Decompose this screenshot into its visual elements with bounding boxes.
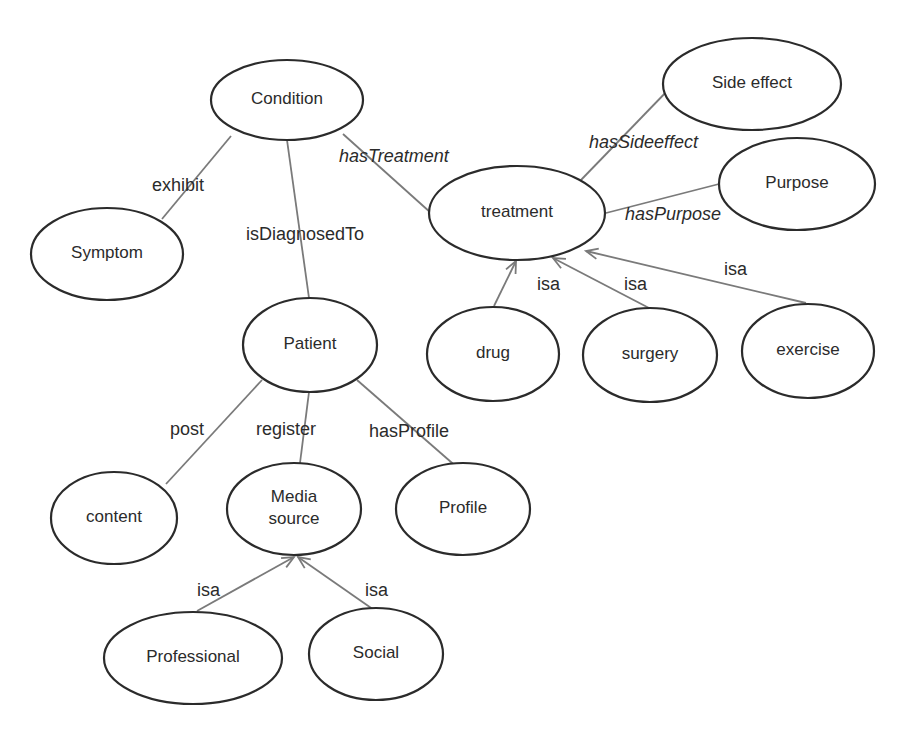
edge-drug-treatment bbox=[494, 261, 516, 306]
node-label: Side effect bbox=[712, 73, 792, 92]
node-purpose[interactable]: Purpose bbox=[719, 138, 875, 230]
node-label: surgery bbox=[622, 344, 679, 363]
edge-line bbox=[494, 261, 516, 306]
nodes-layer: ConditionSide effecttreatmentPurposeSymp… bbox=[31, 38, 875, 704]
edge-social-media_source bbox=[298, 557, 374, 610]
edge-label-post: post bbox=[170, 419, 204, 439]
node-professional[interactable]: Professional bbox=[104, 612, 282, 704]
node-label: drug bbox=[476, 343, 510, 362]
node-drug[interactable]: drug bbox=[427, 307, 559, 401]
edge-label-isdiagnosedto: isDiagnosedTo bbox=[246, 224, 364, 244]
edge-label-isa: isa bbox=[624, 274, 648, 294]
edge-label-isa: isa bbox=[197, 580, 221, 600]
node-label: exercise bbox=[776, 340, 839, 359]
node-symptom[interactable]: Symptom bbox=[31, 208, 183, 300]
node-label: content bbox=[86, 507, 142, 526]
edge-line bbox=[287, 140, 309, 298]
edge-label-exhibit: exhibit bbox=[152, 175, 204, 195]
node-label: Profile bbox=[439, 498, 487, 517]
edge-line bbox=[586, 251, 806, 303]
edge-label-isa: isa bbox=[537, 274, 561, 294]
edge-condition-patient bbox=[287, 140, 309, 298]
edge-label-isa: isa bbox=[365, 580, 389, 600]
ontology-diagram: ConditionSide effecttreatmentPurposeSymp… bbox=[0, 0, 911, 734]
edge-label-hassideeffect: hasSideeffect bbox=[589, 132, 699, 152]
node-surgery[interactable]: surgery bbox=[583, 308, 717, 402]
node-side-effect[interactable]: Side effect bbox=[663, 38, 841, 130]
node-exercise[interactable]: exercise bbox=[742, 304, 874, 398]
node-label: Condition bbox=[251, 89, 323, 108]
node-label: Patient bbox=[284, 334, 337, 353]
node-label: Symptom bbox=[71, 243, 143, 262]
node-label: source bbox=[268, 509, 319, 528]
node-content[interactable]: content bbox=[51, 472, 177, 564]
node-condition[interactable]: Condition bbox=[211, 60, 363, 140]
edge-exercise-treatment bbox=[586, 249, 806, 303]
node-social[interactable]: Social bbox=[309, 608, 443, 700]
node-treatment[interactable]: treatment bbox=[429, 166, 605, 260]
node-label: Social bbox=[353, 643, 399, 662]
edge-label-haspurpose: hasPurpose bbox=[625, 204, 721, 224]
edge-label-register: register bbox=[256, 419, 316, 439]
node-profile[interactable]: Profile bbox=[396, 463, 530, 555]
edge-label-hastreatment: hasTreatment bbox=[339, 146, 450, 166]
node-label: Media bbox=[271, 487, 318, 506]
edge-line bbox=[298, 557, 374, 610]
arrow-head-icon bbox=[298, 557, 311, 568]
node-label: treatment bbox=[481, 202, 553, 221]
node-media-source[interactable]: Mediasource bbox=[227, 463, 361, 555]
edge-label-isa: isa bbox=[724, 259, 748, 279]
node-label: Professional bbox=[146, 647, 240, 666]
node-label: Purpose bbox=[765, 173, 828, 192]
node-patient[interactable]: Patient bbox=[243, 298, 377, 392]
edge-label-hasprofile: hasProfile bbox=[369, 421, 449, 441]
